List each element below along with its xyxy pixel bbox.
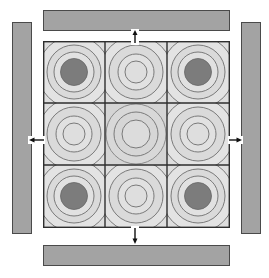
arrow-up-icon: [131, 29, 139, 45]
arrow-left-icon: [28, 136, 45, 144]
arrow-down-icon: [131, 226, 139, 244]
arrow-overlay: [0, 0, 269, 278]
arrow-right-icon: [228, 136, 243, 144]
